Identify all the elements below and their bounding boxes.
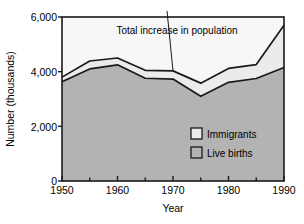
x-tick-label-1980: 1980 [217, 184, 241, 196]
legend-label-live-births: Live births [207, 148, 253, 159]
x-tick-label-1970: 1970 [161, 184, 185, 196]
x-tick-label-1960: 1960 [106, 184, 130, 196]
area-live-births [62, 65, 284, 181]
legend-item-immigrants[interactable]: Immigrants [191, 128, 256, 140]
legend-label-immigrants: Immigrants [207, 129, 256, 140]
y-axis-title: Number (thousands) [4, 51, 16, 147]
legend-item-live-births[interactable]: Live births [191, 147, 253, 159]
chart-figure: 6,000 4,000 2,000 0 1950 1960 1970 1980 … [0, 0, 304, 224]
x-tick-label-1990: 1990 [272, 184, 296, 196]
x-tick-label-1950: 1950 [50, 184, 74, 196]
y-tick-label-6000: 6,000 [31, 11, 57, 23]
legend-swatch-live-births [191, 147, 202, 158]
x-axis-title: Year [162, 202, 184, 214]
y-tick-label-2000: 2,000 [31, 121, 57, 133]
annotation-total-increase: Total increase in population [116, 25, 237, 36]
legend-swatch-immigrants [191, 128, 202, 139]
y-tick-label-4000: 4,000 [31, 66, 57, 78]
chart-svg: 6,000 4,000 2,000 0 1950 1960 1970 1980 … [0, 0, 304, 224]
